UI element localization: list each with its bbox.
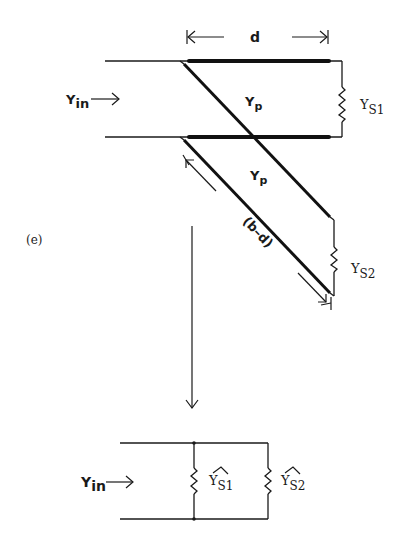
yin-arrow-top: Yin [65,92,119,111]
load-ys2-hat: YS2 [265,443,305,519]
yp-upper-label: Yp [244,94,262,113]
load-ys1-hat: YS1 [191,443,233,519]
svg-text:Yin: Yin [65,92,89,111]
yin-arrow-bottom: Yin [80,474,133,494]
bottom-circuit: Yin YS1 YS2 [80,441,305,521]
svg-text:YS1: YS1 [208,473,233,493]
transmission-line-equivalence-diagram: d YS1 Yin Yp Yp [0,0,403,551]
svg-text:YS2: YS2 [280,473,305,493]
svg-text:YS2: YS2 [350,261,375,281]
stub-line-upper [184,64,330,217]
svg-text:Yin: Yin [80,474,106,494]
ys1-sub: S1 [369,103,385,117]
yp-lower-label: Yp [249,168,267,187]
dimension-d-label: d [250,29,260,45]
ys2-main: Y [350,261,360,276]
equivalence-arrow [186,226,198,408]
load-ys2: YS2 [331,220,375,296]
svg-text:YS1: YS1 [359,97,384,117]
stub-line-lower [184,140,330,293]
dimension-d-arrow: d [187,29,328,45]
ys2-sub: S2 [360,267,376,281]
top-circuit: d YS1 Yin Yp Yp [65,29,384,310]
figure-label: (e) [26,233,42,247]
ys1-main: Y [359,97,369,112]
load-ys1: YS1 [339,61,384,137]
